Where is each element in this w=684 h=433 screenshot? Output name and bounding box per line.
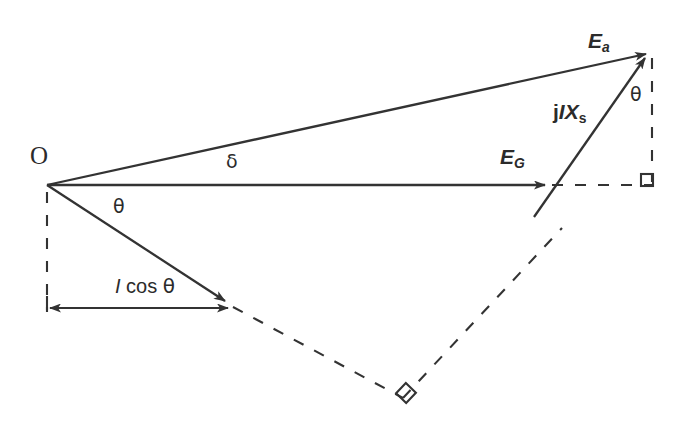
right-angle-marker-bottom [396,383,416,403]
label-ea-base: E [588,29,602,52]
label-ea-subscript: a [602,39,610,55]
dashed-icos-to-corner [233,307,403,398]
label-jix-subscript: s [579,110,587,126]
label-vector-ea: Ea [588,30,610,55]
phasor-diagram-canvas [0,0,684,433]
label-theta-top-right-angle: θ [630,85,642,104]
vector-jixs-line [534,58,645,217]
label-origin: O [30,143,48,168]
label-measure-icos-theta: I cos θ [115,276,175,296]
label-vector-jixs: jIXs [553,101,586,126]
label-jix-reactance: X [565,100,579,123]
label-icos-theta: θ [163,274,175,298]
label-vector-eg: EG [500,146,525,171]
label-theta-origin-angle: θ [113,197,125,216]
label-icos-cos: cos [121,275,163,297]
label-delta-angle: δ [226,152,238,171]
label-eg-subscript: G [514,155,525,171]
phasor-diagram: O δ θ θ Ea EG jIXs I cos θ [0,0,684,433]
label-eg-base: E [500,145,514,168]
dashed-corner-to-jix [403,228,562,398]
